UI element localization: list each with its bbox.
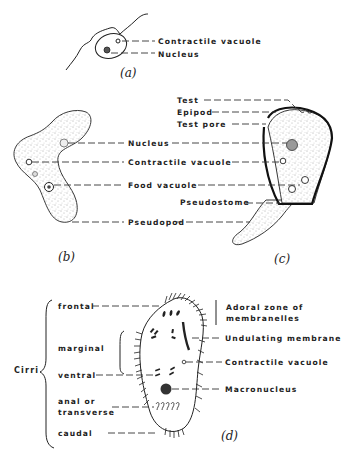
contractile-vacuole-c (280, 158, 286, 164)
contractile-vacuole-a (116, 39, 120, 43)
label-cirri: Cirri (14, 366, 39, 375)
ventral-cirri (150, 328, 176, 377)
marginal-bracket (120, 331, 124, 374)
cirri-brace (40, 300, 54, 448)
label-test: Test (177, 96, 199, 105)
label-pseudopod-shared: Pseudopod (128, 218, 185, 227)
label-macronucleus: Macronucleus (225, 385, 297, 394)
testate-body (268, 110, 332, 203)
nucleus-a (104, 47, 110, 53)
flagellate-organism (66, 14, 148, 70)
contractile-vacuole-d (182, 360, 186, 364)
label-marginal: marginal (58, 344, 105, 353)
label-food-vacuole-shared: Food vacuole (128, 181, 198, 190)
panel-c: (c) Test Epipod Test pore Pseudostome (177, 96, 332, 266)
nucleus-c (287, 140, 298, 151)
panel-a: Contractile vacuole Nucleus (a) (66, 14, 262, 80)
ciliate-body (140, 298, 203, 432)
label-epipod: Epipod (177, 108, 213, 117)
macronucleus (161, 384, 172, 395)
frontal-cirri (162, 310, 181, 318)
label-adoral-zone: Adoral zone of (226, 303, 303, 312)
label-frontal: frontal (58, 302, 95, 311)
label-membranelles: membranelles (226, 314, 300, 323)
label-transverse: transverse (58, 408, 115, 417)
caption-b: (b) (58, 250, 75, 264)
contractile-vacuole-b (26, 159, 32, 165)
protozoa-diagram: Contractile vacuole Nucleus (a) (b) (c) … (0, 0, 347, 461)
label-caudal: caudal (58, 429, 93, 438)
caption-c: (c) (274, 252, 290, 266)
nucleus-b (60, 139, 68, 147)
label-undulating-membrane: Undulating membrane (225, 334, 342, 343)
label-test-pore: Test pore (177, 120, 227, 129)
label-ventral: ventral (58, 371, 96, 380)
label-nucleus-a: Nucleus (158, 50, 200, 59)
food-vacuole-c2 (289, 186, 296, 193)
label-nucleus-shared: Nucleus (128, 139, 170, 148)
panel-d: Cirri (14, 293, 342, 448)
transverse-cirri (156, 403, 179, 411)
label-pseudostome: Pseudostome (180, 198, 250, 207)
label-contractile-vacuole-d: Contractile vacuole (225, 358, 329, 367)
panel-b: (b) (14, 110, 91, 264)
caption-d: (d) (221, 429, 238, 443)
caption-a: (a) (120, 66, 137, 80)
label-anal-or: anal or (58, 397, 96, 406)
undulating-membrane (183, 322, 189, 350)
food-vacuole-c1 (302, 177, 309, 184)
amoeba-organism (14, 110, 91, 222)
label-contractile-vacuole-shared: Contractile vacuole (128, 158, 232, 167)
label-contractile-vacuole-a: Contractile vacuole (158, 37, 262, 46)
